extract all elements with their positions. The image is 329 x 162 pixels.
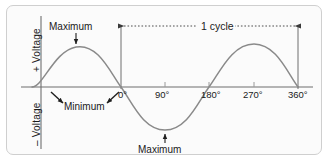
- diagram-stage: + Voltage – Voltage 0° 90° 180° 270° 360…: [7, 6, 322, 155]
- minimum-left-arrow: [51, 92, 63, 103]
- x-tick-label-90: 90°: [155, 90, 169, 100]
- maximum-top-label: Maximum: [49, 22, 92, 32]
- cycle-label: 1 cycle: [201, 21, 234, 32]
- diagram-panel: + Voltage – Voltage 0° 90° 180° 270° 360…: [6, 5, 322, 155]
- y-axis-negative-label: – Voltage: [32, 102, 42, 146]
- x-tick-label-180: 180°: [201, 90, 221, 100]
- y-axis-positive-label: + Voltage: [32, 28, 42, 72]
- minimum-label: Minimum: [64, 102, 105, 112]
- x-tick-label-270: 270°: [243, 90, 263, 100]
- maximum-bottom-label: Maximum: [138, 145, 181, 155]
- x-tick-label-0: 0°: [118, 90, 127, 100]
- x-tick-label-360: 360°: [288, 90, 308, 100]
